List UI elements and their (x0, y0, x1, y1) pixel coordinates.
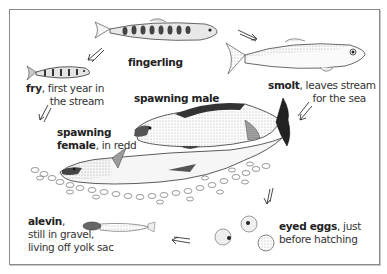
stage-label-fry: fry, first year in the stream (26, 82, 104, 108)
stage-label-spawning-female: spawning female, in redd (57, 126, 136, 152)
stage-desc: , in redd (96, 139, 137, 151)
stage-desc: , first year in (42, 82, 104, 94)
stage-desc: , leaves stream (300, 79, 376, 91)
stage-name: alevin (28, 215, 62, 227)
stage-name: spawning (57, 126, 111, 138)
stage-desc: before hatching (279, 233, 358, 245)
smolt-fish-icon (226, 39, 365, 74)
arrow-fry-to-fingerling-icon (88, 48, 104, 62)
stage-name: fingerling (128, 56, 183, 68)
fry-fish-icon (27, 66, 90, 80)
stage-label-spawning-male: spawning male (134, 92, 219, 105)
arrow-fingerling-to-smolt-icon (238, 30, 257, 41)
stage-name: female (57, 139, 96, 151)
arrow-eggs-to-alevin-icon (172, 237, 190, 244)
stage-label-alevin: alevin, still in gravel, living off yolk… (28, 215, 114, 254)
stage-desc: , (62, 215, 65, 227)
stage-name: spawning male (134, 92, 219, 104)
fingerling-fish-icon (95, 19, 217, 41)
stage-desc: the stream (50, 95, 104, 107)
stage-desc: for the sea (313, 92, 366, 104)
stage-label-smolt: smolt, leaves stream for the sea (268, 79, 366, 105)
stage-label-fingerling: fingerling (128, 56, 183, 69)
arrow-female-to-eggs-icon (264, 188, 273, 204)
stage-name: smolt (268, 79, 300, 91)
spawning-male-fish-icon (134, 98, 290, 149)
stage-name: fry (26, 82, 42, 94)
stage-desc: , just (337, 220, 361, 232)
stage-label-eyed-eggs: eyed eggs, just before hatching (279, 220, 361, 246)
eyed-eggs-icon (215, 216, 274, 251)
stage-desc: living off yolk sac (28, 241, 114, 253)
stage-desc: still in gravel, (28, 228, 94, 240)
stage-name: eyed eggs (279, 220, 337, 232)
